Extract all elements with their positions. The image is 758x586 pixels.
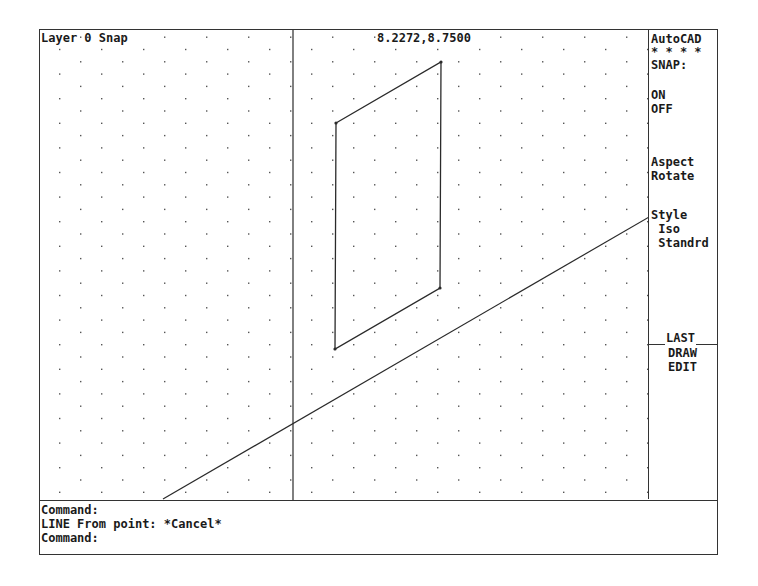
menu-item-style[interactable]: Style [651,208,687,222]
drawing-canvas[interactable] [40,30,648,500]
menu-item-last[interactable]: LAST [665,331,696,345]
menu-stars[interactable]: * * * * [651,45,702,59]
menu-item-on[interactable]: ON [651,88,665,102]
menu-item-rotate[interactable]: Rotate [651,169,694,183]
menu-title-autocad[interactable]: AutoCAD [651,32,702,46]
command-area[interactable]: Command: LINE From point: *Cancel* Comma… [40,500,717,554]
menu-item-off[interactable]: OFF [651,102,673,116]
menu-item-edit[interactable]: EDIT [668,360,697,374]
menu-item-draw[interactable]: DRAW [668,346,697,360]
screen-menu: AutoCAD * * * * SNAP: ON OFF Aspect Rota… [648,30,717,499]
command-history-line: Command: [41,503,99,517]
menu-item-aspect[interactable]: Aspect [651,155,694,169]
menu-item-iso[interactable]: Iso [651,222,680,236]
menu-item-standard[interactable]: Standrd [651,236,709,250]
drawing-area[interactable] [40,30,648,500]
menu-heading-snap: SNAP: [651,58,687,72]
command-prompt[interactable]: Command: [41,531,99,545]
command-history-line: LINE From point: *Cancel* [41,517,222,531]
